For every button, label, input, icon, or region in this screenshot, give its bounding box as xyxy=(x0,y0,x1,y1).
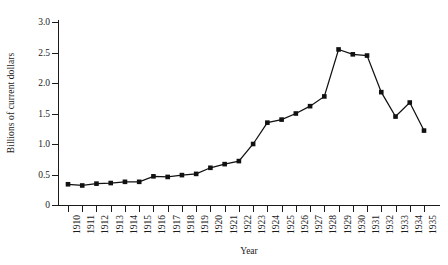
y-axis-tick-label: 0.5 xyxy=(38,170,50,180)
x-axis-tick-mark xyxy=(396,206,397,212)
data-point-marker xyxy=(208,165,213,170)
data-point-marker xyxy=(137,180,142,185)
x-axis-tick-label: 1932 xyxy=(385,215,395,234)
x-axis-tick-mark xyxy=(153,206,154,212)
x-axis-tick-mark xyxy=(239,206,240,212)
data-point-marker xyxy=(308,104,313,109)
x-axis-tick-mark xyxy=(253,206,254,212)
x-axis-tick-mark xyxy=(125,206,126,212)
series-line xyxy=(68,49,424,185)
data-point-marker xyxy=(165,175,170,180)
x-axis-tick-label: 1911 xyxy=(86,215,96,234)
data-point-marker xyxy=(351,52,356,57)
data-point-marker xyxy=(94,181,99,186)
x-axis-tick-mark xyxy=(381,206,382,212)
y-axis-tick-label: 1.5 xyxy=(38,109,50,119)
x-axis-tick-mark xyxy=(324,206,325,212)
data-point-marker xyxy=(251,142,256,147)
x-axis-tick-label: 1927 xyxy=(314,215,324,234)
y-axis-tick-mark xyxy=(52,205,58,206)
x-axis-title: Year xyxy=(58,246,440,256)
data-point-marker xyxy=(108,181,113,186)
y-axis-tick-mark xyxy=(52,53,58,54)
x-axis-tick-mark xyxy=(225,206,226,212)
x-axis-tick-label: 1930 xyxy=(357,215,367,234)
x-axis-tick-label: 1910 xyxy=(72,215,82,234)
data-point-marker xyxy=(336,47,341,52)
x-axis-tick-label: 1929 xyxy=(343,215,353,234)
x-axis-tick-label: 1935 xyxy=(428,215,438,234)
x-axis-tick-mark xyxy=(96,206,97,212)
x-axis-tick-label: 1931 xyxy=(371,215,381,234)
y-axis-tick-label: 2.0 xyxy=(38,78,50,88)
y-axis-title-text: Billions of current dollars xyxy=(6,52,16,153)
data-point-marker xyxy=(180,173,185,178)
x-axis-tick-mark xyxy=(339,206,340,212)
data-point-marker xyxy=(393,114,398,119)
x-axis-tick-mark xyxy=(424,206,425,212)
y-axis-tick-label: 2.5 xyxy=(38,48,50,58)
x-axis-tick-mark xyxy=(296,206,297,212)
x-axis-tick-mark xyxy=(68,206,69,212)
x-axis-tick-label: 1934 xyxy=(414,215,424,234)
x-axis-tick-mark xyxy=(282,206,283,212)
x-axis-tick-mark xyxy=(139,206,140,212)
x-axis-tick-mark xyxy=(182,206,183,212)
x-axis-tick-label: 1917 xyxy=(172,215,182,234)
y-axis-tick-mark xyxy=(52,22,58,23)
x-axis-tick-mark xyxy=(367,206,368,212)
x-axis-tick-mark xyxy=(310,206,311,212)
data-point-marker xyxy=(123,180,128,185)
x-axis-tick-mark xyxy=(267,206,268,212)
y-axis-tick-labels: 00.51.01.52.02.53.0 xyxy=(22,0,54,265)
x-axis-line xyxy=(58,205,440,206)
x-axis-tick-label: 1928 xyxy=(328,215,338,234)
data-point-marker xyxy=(194,172,199,177)
x-axis-tick-label: 1919 xyxy=(200,215,210,234)
data-point-marker xyxy=(379,90,384,95)
x-axis-tick-mark xyxy=(410,206,411,212)
y-axis-tick-mark xyxy=(52,83,58,84)
x-axis-tick-label: 1933 xyxy=(400,215,410,234)
x-axis-tick-label: 1916 xyxy=(157,215,167,234)
y-axis-tick-label: 3.0 xyxy=(38,17,50,27)
x-axis-tick-label: 1926 xyxy=(300,215,310,234)
x-axis-tick-mark xyxy=(353,206,354,212)
data-point-marker xyxy=(279,117,284,122)
x-axis-tick-label: 1921 xyxy=(229,215,239,234)
y-axis-tick-label: 1.0 xyxy=(38,139,50,149)
y-axis-line xyxy=(58,20,59,206)
x-axis-tick-mark xyxy=(196,206,197,212)
x-axis-tick-mark xyxy=(168,206,169,212)
series-markers xyxy=(66,47,427,188)
data-point-marker xyxy=(222,162,227,167)
data-point-marker xyxy=(322,94,327,99)
y-axis-tick-mark xyxy=(52,175,58,176)
x-axis-tick-label: 1914 xyxy=(129,215,139,234)
data-point-marker xyxy=(365,53,370,58)
x-axis-tick-mark xyxy=(111,206,112,212)
x-axis-tick-label: 1913 xyxy=(115,215,125,234)
data-point-marker xyxy=(66,182,71,187)
data-point-marker xyxy=(294,111,299,116)
data-point-marker xyxy=(422,128,427,133)
x-axis-tick-label: 1912 xyxy=(100,215,110,234)
y-axis-tick-mark xyxy=(52,114,58,115)
x-axis-tick-mark xyxy=(82,206,83,212)
data-point-marker xyxy=(237,159,242,164)
x-axis-tick-label: 1924 xyxy=(271,215,281,234)
x-axis-tick-label: 1915 xyxy=(143,215,153,234)
data-point-marker xyxy=(265,120,270,125)
x-axis-tick-label: 1922 xyxy=(243,215,253,234)
data-point-marker xyxy=(151,174,156,179)
x-axis-tick-label: 1920 xyxy=(214,215,224,234)
x-axis-tick-label: 1918 xyxy=(186,215,196,234)
y-axis-tick-label: 0 xyxy=(45,200,50,210)
data-point-marker xyxy=(80,183,85,188)
data-point-marker xyxy=(407,100,412,105)
x-axis-tick-label: 1923 xyxy=(257,215,267,234)
chart-figure: Billions of current dollars 00.51.01.52.… xyxy=(0,0,448,265)
x-axis-tick-label: 1925 xyxy=(286,215,296,234)
x-axis-tick-mark xyxy=(210,206,211,212)
y-axis-tick-mark xyxy=(52,144,58,145)
